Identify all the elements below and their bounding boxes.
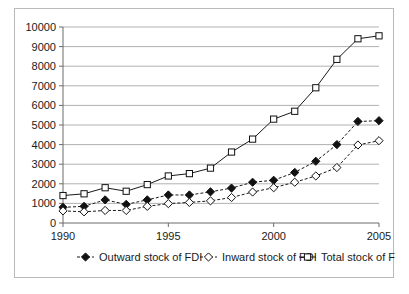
y-axis-label-0: 0	[50, 217, 56, 229]
y-axis-label-7000: 7000	[32, 80, 56, 92]
chart-frame: 0100020003000400050006000700080009000100…	[14, 8, 394, 278]
series-inward-stock-of-fdi	[59, 137, 383, 216]
y-axis-label-4000: 4000	[32, 139, 56, 151]
y-axis-label-1000: 1000	[32, 197, 56, 209]
gridlines	[63, 27, 379, 203]
series-line-1	[63, 141, 379, 212]
x-axis-label-1990: 1990	[51, 230, 75, 242]
legend-marker-0	[81, 253, 89, 261]
data-point-1-1992	[101, 206, 109, 214]
x-axis-label-2005: 2005	[367, 230, 391, 242]
data-point-1-2002	[312, 172, 320, 180]
data-point-0-2005	[375, 117, 383, 125]
data-point-1-1993	[122, 206, 130, 214]
data-point-2-1993	[123, 188, 129, 194]
data-point-2-1996	[186, 171, 192, 177]
data-point-1-1991	[80, 208, 88, 216]
x-axis-label-1995: 1995	[156, 230, 180, 242]
data-point-0-1999	[249, 178, 257, 186]
data-point-2-1997	[207, 165, 213, 171]
legend-label-0: Outward stock of FDI	[99, 251, 202, 263]
data-point-2-2003	[334, 56, 340, 62]
legend-marker-2	[304, 254, 310, 260]
x-axis-tick-labels: 1990199520002005	[51, 230, 391, 242]
data-point-0-1995	[164, 191, 172, 199]
data-point-2-2002	[313, 85, 319, 91]
data-point-0-2001	[291, 168, 299, 176]
y-axis-label-2000: 2000	[32, 178, 56, 190]
y-axis-label-9000: 9000	[32, 41, 56, 53]
y-axis-label-5000: 5000	[32, 119, 56, 131]
y-axis-label-6000: 6000	[32, 99, 56, 111]
data-point-1-1996	[185, 198, 193, 206]
data-point-2-1992	[102, 185, 108, 191]
chart-legend: Outward stock of FDIInward stock of FDIT…	[77, 251, 395, 263]
x-axis	[63, 223, 379, 227]
data-point-1-1999	[249, 188, 257, 196]
data-point-1-2001	[291, 178, 299, 186]
y-axis-label-10000: 10000	[25, 21, 56, 33]
data-point-1-1998	[227, 193, 235, 201]
x-axis-label-2000: 2000	[261, 230, 285, 242]
legend-item-0[interactable]: Outward stock of FDI	[77, 251, 202, 263]
data-point-2-1995	[165, 173, 171, 179]
data-point-2-2000	[271, 116, 277, 122]
chart-plot-area: 0100020003000400050006000700080009000100…	[15, 9, 395, 279]
legend-marker-1	[204, 253, 212, 261]
y-axis-label-3000: 3000	[32, 158, 56, 170]
data-point-0-1998	[227, 184, 235, 192]
data-point-2-1991	[81, 191, 87, 197]
data-point-0-1997	[206, 188, 214, 196]
series-total-stock-of-fdi	[60, 33, 382, 199]
y-axis-label-8000: 8000	[32, 60, 56, 72]
series-line-2	[63, 36, 379, 196]
legend-label-2: Total stock of FDI	[321, 251, 395, 263]
y-axis-tick-labels: 0100020003000400050006000700080009000100…	[25, 21, 56, 229]
data-point-2-2005	[376, 33, 382, 39]
data-point-1-2000	[270, 184, 278, 192]
fdi-stock-line-chart: 0100020003000400050006000700080009000100…	[15, 9, 395, 279]
data-point-2-2001	[292, 108, 298, 114]
data-point-1-2005	[375, 137, 383, 145]
data-series	[59, 33, 383, 216]
data-point-2-1994	[144, 181, 150, 187]
data-point-1-2003	[333, 163, 341, 171]
data-point-2-1990	[60, 192, 66, 198]
data-point-2-1998	[228, 149, 234, 155]
data-point-1-1995	[164, 200, 172, 208]
data-point-0-1992	[101, 196, 109, 204]
data-point-2-1999	[250, 136, 256, 142]
data-point-2-2004	[355, 36, 361, 42]
